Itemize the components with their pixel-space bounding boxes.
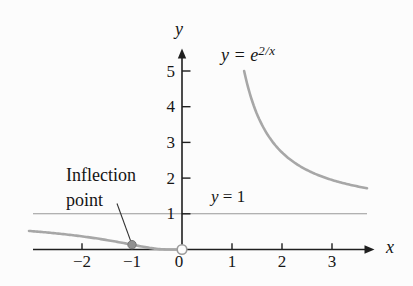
curve-branch-right: [244, 71, 367, 188]
curve-equation-exponent: 2/x: [258, 43, 275, 58]
asymptote-label-value: = 1: [219, 187, 246, 206]
x-tick-label--2: −2: [73, 252, 91, 271]
y-tick-label-1: 1: [167, 204, 176, 223]
x-axis-arrow-icon: [365, 245, 375, 254]
y-tick-label-3: 3: [167, 133, 176, 152]
curve-equation-base: y = e: [221, 45, 258, 65]
x-tick-label-1: 1: [228, 252, 237, 271]
inflection-point-label: Inflection point: [66, 163, 161, 213]
inflection-point-dot: [128, 240, 136, 248]
y-tick-label-4: 4: [167, 97, 176, 116]
x-axis-label: x: [386, 237, 394, 258]
figure-exp-curve: −2−1012312345 y = e2/x y = 1 Inflection …: [0, 0, 413, 286]
open-point-origin: [177, 245, 187, 255]
plot-canvas: −2−1012312345: [0, 0, 413, 286]
y-axis-label: y: [175, 19, 183, 40]
x-tick-label-2: 2: [278, 252, 287, 271]
y-axis-arrow-icon: [178, 49, 186, 59]
asymptote-label-var: y: [211, 187, 219, 206]
y-tick-label-5: 5: [167, 62, 176, 81]
x-tick-label-3: 3: [328, 252, 337, 271]
x-tick-label--1: −1: [123, 252, 141, 271]
curve-equation-label: y = e2/x: [221, 43, 276, 66]
curve-branch-left: [29, 231, 176, 250]
asymptote-label: y = 1: [211, 187, 245, 207]
y-tick-label-2: 2: [167, 169, 176, 188]
